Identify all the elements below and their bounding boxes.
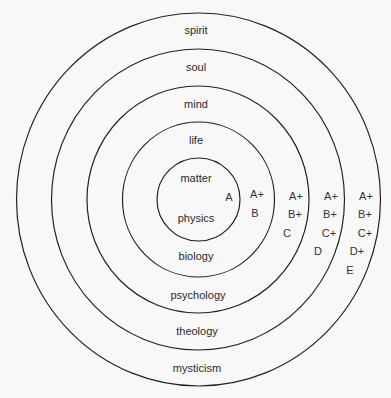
grade-mysticism-2: C+ [358,227,372,239]
label-life: life [189,134,203,146]
label-biology: biology [179,250,214,262]
label-soul: soul [186,61,206,73]
diagram-canvas: spirit soul mind life matter physics bio… [0,0,391,398]
grade-mysticism-1: B+ [358,208,372,220]
ring-mind [87,86,309,313]
label-physics: physics [178,212,215,224]
grade-biology-0: A+ [250,188,264,200]
grade-mysticism-3: D+ [350,245,364,257]
label-mysticism: mysticism [173,362,221,374]
grade-biology-1: B [251,207,258,219]
grade-psychology-1: B+ [288,208,302,220]
label-spirit: spirit [184,24,207,36]
grade-psychology-0: A+ [289,190,303,202]
grade-theology-0: A+ [324,190,338,202]
concentric-diagram: spirit soul mind life matter physics bio… [0,0,391,398]
label-theology: theology [176,325,218,337]
grade-psychology-2: C [283,227,291,239]
grade-mysticism-0: A+ [359,190,373,202]
grade-mysticism-4: E [346,264,353,276]
label-matter: matter [180,172,212,184]
grade-theology-1: B+ [323,208,337,220]
grade-physics-0: A [225,191,233,203]
grade-theology-3: D [314,245,322,257]
label-psychology: psychology [170,289,226,301]
grade-theology-2: C+ [322,227,336,239]
label-mind: mind [184,98,208,110]
